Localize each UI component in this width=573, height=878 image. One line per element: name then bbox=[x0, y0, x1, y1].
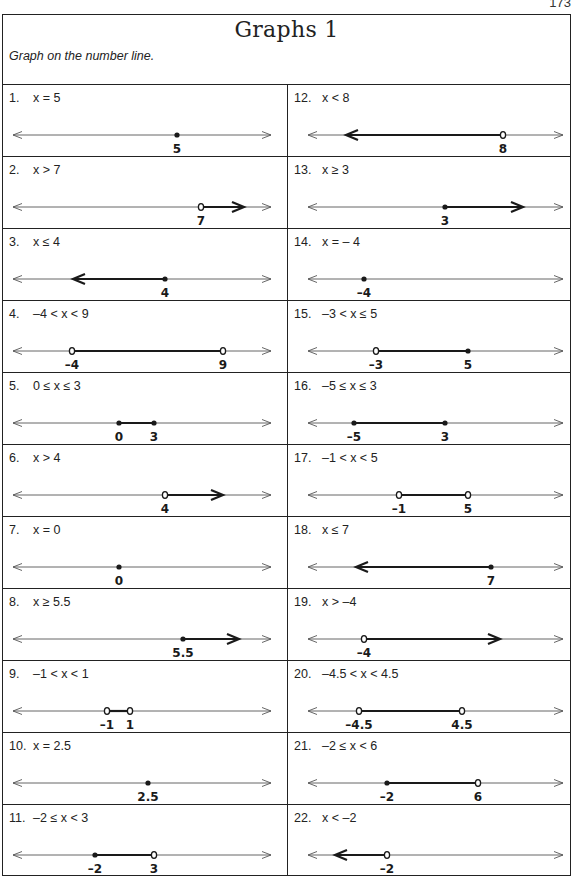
problem-cell: 19.x > –4–4 bbox=[288, 589, 570, 661]
open-circle-icon bbox=[361, 636, 366, 643]
point-label: 3 bbox=[441, 430, 449, 444]
open-circle-icon bbox=[475, 780, 480, 787]
point-label: 6 bbox=[474, 790, 482, 804]
number-line: 7 bbox=[288, 517, 570, 589]
closed-dot-icon bbox=[488, 564, 493, 569]
problem-cell: 20.–4.5 < x < 4.5–4.54.5 bbox=[288, 661, 570, 733]
point-label: 5 bbox=[173, 142, 181, 156]
number-line: 8 bbox=[288, 85, 570, 157]
point-label: 4.5 bbox=[451, 718, 472, 732]
closed-dot-icon bbox=[442, 204, 447, 209]
point-label: 3 bbox=[441, 214, 449, 228]
point-label: –4 bbox=[357, 646, 371, 660]
closed-dot-icon bbox=[384, 780, 389, 785]
point-label: –3 bbox=[369, 358, 383, 372]
number-line: 4 bbox=[3, 445, 287, 517]
problem-cell: 6.x > 44 bbox=[3, 445, 287, 517]
problem-cell: 9.–1 < x < 1–11 bbox=[3, 661, 287, 733]
number-line: –4 bbox=[288, 229, 570, 301]
number-line: 7 bbox=[3, 157, 287, 229]
problem-cell: 15.–3 < x ≤ 5–35 bbox=[288, 301, 570, 373]
point-label: –1 bbox=[392, 502, 406, 516]
problem-cell: 17.–1 < x < 5–15 bbox=[288, 445, 570, 517]
point-label: 5 bbox=[464, 358, 472, 372]
point-label: 4 bbox=[161, 286, 169, 300]
open-circle-icon bbox=[69, 348, 74, 355]
number-line: –15 bbox=[288, 445, 570, 517]
point-label: 5.5 bbox=[172, 646, 193, 660]
point-label: –4 bbox=[65, 358, 79, 372]
problem-cell: 10.x = 2.52.5 bbox=[3, 733, 287, 805]
open-circle-icon bbox=[104, 708, 109, 715]
point-label: –2 bbox=[380, 790, 394, 804]
closed-dot-icon bbox=[174, 132, 179, 137]
point-label: 2.5 bbox=[137, 790, 158, 804]
number-line: –35 bbox=[288, 301, 570, 373]
open-circle-icon bbox=[220, 348, 225, 355]
point-label: –5 bbox=[347, 430, 361, 444]
point-label: 7 bbox=[487, 574, 495, 588]
open-circle-icon bbox=[198, 204, 203, 211]
problem-column-right: 12.x < 8813.x ≥ 3314.x = – 4–415.–3 < x … bbox=[288, 85, 570, 875]
number-line: 4 bbox=[3, 229, 287, 301]
open-circle-icon bbox=[373, 348, 378, 355]
number-line: 3 bbox=[288, 157, 570, 229]
problem-grid: 1.x = 552.x > 773.x ≤ 444.–4 < x < 9–495… bbox=[3, 85, 570, 875]
number-line: 5 bbox=[3, 85, 287, 157]
open-circle-icon bbox=[356, 708, 361, 715]
problem-cell: 3.x ≤ 44 bbox=[3, 229, 287, 301]
point-label: 9 bbox=[219, 358, 227, 372]
closed-dot-icon bbox=[442, 420, 447, 425]
problem-cell: 14.x = – 4–4 bbox=[288, 229, 570, 301]
page-title: Graphs 1 bbox=[3, 17, 570, 42]
point-label: –1 bbox=[100, 718, 114, 732]
closed-dot-icon bbox=[465, 348, 470, 353]
point-label: –4.5 bbox=[345, 718, 372, 732]
problem-cell: 13.x ≥ 33 bbox=[288, 157, 570, 229]
instructions: Graph on the number line. bbox=[9, 49, 154, 63]
point-label: 1 bbox=[126, 718, 134, 732]
point-label: 0 bbox=[115, 430, 123, 444]
point-label: –2 bbox=[88, 862, 102, 876]
problem-cell: 21.–2 ≤ x < 6–26 bbox=[288, 733, 570, 805]
closed-dot-icon bbox=[92, 852, 97, 857]
number-line: –26 bbox=[288, 733, 570, 805]
number-line: –4.54.5 bbox=[288, 661, 570, 733]
problem-column-left: 1.x = 552.x > 773.x ≤ 444.–4 < x < 9–495… bbox=[3, 85, 288, 875]
closed-dot-icon bbox=[351, 420, 356, 425]
number-line: –49 bbox=[3, 301, 287, 373]
closed-dot-icon bbox=[180, 636, 185, 641]
number-line: 2.5 bbox=[3, 733, 287, 805]
closed-dot-icon bbox=[116, 420, 121, 425]
point-label: 3 bbox=[150, 430, 158, 444]
point-label: 5 bbox=[464, 502, 472, 516]
point-label: –2 bbox=[380, 862, 394, 876]
problem-cell: 1.x = 55 bbox=[3, 85, 287, 157]
point-label: 4 bbox=[161, 502, 169, 516]
problem-cell: 5.0 ≤ x ≤ 303 bbox=[3, 373, 287, 445]
worksheet-header: Graphs 1 Graph on the number line. bbox=[3, 15, 570, 85]
problem-cell: 2.x > 77 bbox=[3, 157, 287, 229]
number-line: –23 bbox=[3, 805, 287, 877]
problem-cell: 16.–5 ≤ x ≤ 3–53 bbox=[288, 373, 570, 445]
worksheet: Graphs 1 Graph on the number line. 1.x =… bbox=[2, 14, 571, 876]
number-line: 03 bbox=[3, 373, 287, 445]
open-circle-icon bbox=[500, 132, 505, 139]
open-circle-icon bbox=[465, 492, 470, 499]
point-label: 0 bbox=[115, 574, 123, 588]
page-number: 173 bbox=[549, 0, 571, 10]
closed-dot-icon bbox=[116, 564, 121, 569]
point-label: –4 bbox=[357, 286, 371, 300]
point-label: 8 bbox=[499, 142, 507, 156]
open-circle-icon bbox=[151, 852, 156, 859]
number-line: –4 bbox=[288, 589, 570, 661]
problem-cell: 11.–2 ≤ x < 3–23 bbox=[3, 805, 287, 877]
problem-cell: 18.x ≤ 77 bbox=[288, 517, 570, 589]
problem-cell: 12.x < 88 bbox=[288, 85, 570, 157]
problem-cell: 8.x ≥ 5.55.5 bbox=[3, 589, 287, 661]
number-line: –2 bbox=[288, 805, 570, 877]
number-line: –53 bbox=[288, 373, 570, 445]
open-circle-icon bbox=[127, 708, 132, 715]
problem-cell: 4.–4 < x < 9–49 bbox=[3, 301, 287, 373]
problem-cell: 22.x < –2–2 bbox=[288, 805, 570, 877]
